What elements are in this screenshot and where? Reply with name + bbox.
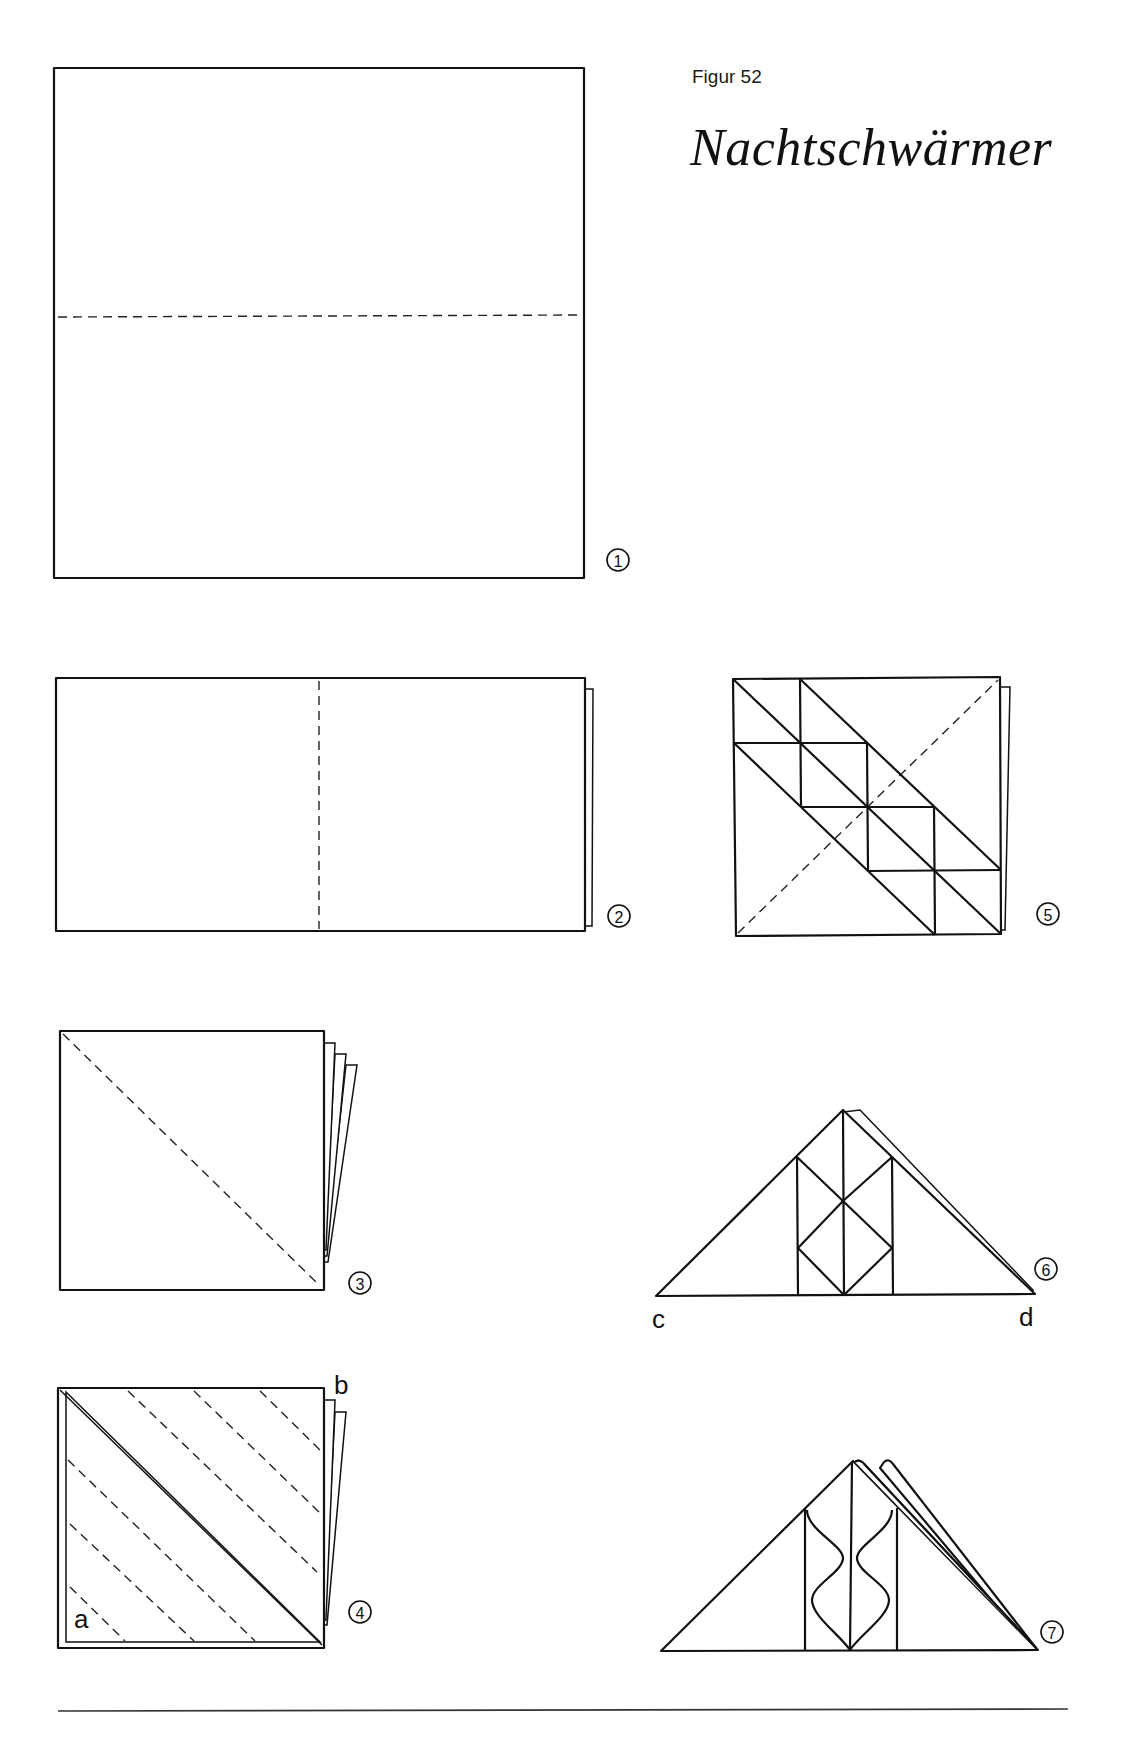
svg-text:5: 5	[1044, 907, 1053, 924]
page-rule	[58, 1709, 1068, 1711]
step-4-diagram: a b 4	[58, 1370, 371, 1648]
svg-text:7: 7	[1048, 1625, 1057, 1642]
point-label-b: b	[334, 1370, 348, 1400]
step-2-diagram: 2	[56, 678, 630, 931]
point-label-d: d	[1019, 1302, 1033, 1332]
svg-text:6: 6	[1042, 1262, 1051, 1279]
diagram-canvas: 1 2 3 a	[0, 0, 1123, 1737]
step-number-badge: 3	[349, 1272, 371, 1294]
svg-text:1: 1	[614, 553, 623, 570]
svg-text:4: 4	[356, 1605, 365, 1622]
svg-text:2: 2	[615, 909, 624, 926]
paper-square	[54, 68, 584, 578]
step-number-badge: 4	[349, 1601, 371, 1623]
step-number-badge: 6	[1035, 1258, 1057, 1280]
step-7-diagram: 7	[661, 1460, 1063, 1651]
step-number-badge: 5	[1037, 903, 1059, 925]
step-1-diagram: 1	[54, 68, 629, 578]
step-3-diagram: 3	[60, 1031, 371, 1294]
step-number-badge: 7	[1041, 1621, 1063, 1643]
step-number-badge: 1	[607, 549, 629, 571]
svg-text:3: 3	[356, 1276, 365, 1293]
step-6-diagram: c d 6	[652, 1110, 1057, 1334]
step-5-diagram: 5	[733, 677, 1059, 936]
point-label-a: a	[74, 1604, 89, 1634]
folded-rectangle	[56, 678, 585, 931]
step-number-badge: 2	[608, 905, 630, 927]
point-label-c: c	[652, 1304, 665, 1334]
